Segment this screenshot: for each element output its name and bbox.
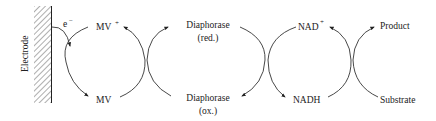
diaphorase-ox-label: Diaphorase (186, 93, 229, 103)
mv-plus-label: MV (96, 22, 111, 32)
nad-plus-charge: + (320, 18, 324, 26)
electron-charge: − (69, 17, 73, 25)
electron-label: e (63, 19, 67, 29)
nadh-oxidation-arc (328, 27, 351, 97)
product-label: Product (380, 21, 410, 31)
nadh-label: NADH (293, 95, 321, 105)
electrode (34, 6, 52, 103)
diaphorase-red-label: Diaphorase (186, 20, 229, 30)
nad-plus-label: NAD (298, 22, 319, 32)
electrode-label: Electrode (20, 36, 30, 72)
mv-plus-charge: + (115, 19, 119, 27)
mv-reduction-arc (65, 27, 88, 96)
diaphorase-oxidation-arc (240, 27, 265, 96)
electron-transfer-diagram: Electrode e − MV + MV Diaphorase (red.) … (0, 0, 436, 121)
mv-label: MV (96, 95, 111, 105)
nad-reduction-arc (268, 27, 296, 97)
mv-oxidation-arc (120, 27, 145, 97)
substrate-label: Substrate (380, 95, 415, 105)
diaphorase-ox-state: (ox.) (199, 106, 217, 117)
substrate-conversion-arc (353, 27, 378, 97)
diaphorase-red-state: (red.) (198, 33, 219, 44)
diaphorase-reduction-arc (147, 27, 171, 96)
